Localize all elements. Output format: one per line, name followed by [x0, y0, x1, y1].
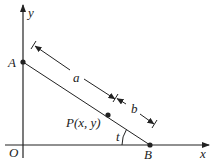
point-p [105, 112, 110, 117]
origin-label: O [9, 145, 19, 160]
point-a [20, 59, 25, 64]
dimension-a-left [35, 46, 70, 70]
x-axis-label: x [199, 146, 206, 161]
point-a-label: A [7, 55, 16, 70]
tick-mark-end [152, 120, 157, 128]
angle-t-arc [122, 130, 127, 146]
y-axis-label: y [26, 5, 34, 20]
segment-b-label: b [131, 101, 138, 116]
point-b-label: B [144, 147, 152, 161]
dimension-b-right [140, 114, 154, 124]
point-p-label: P(x, y) [65, 115, 101, 130]
ladder-diagram: y x O A B P(x, y) a b t [0, 0, 213, 161]
tick-mark-start [31, 41, 36, 49]
dimension-a-right [84, 79, 115, 99]
segment-a-label: a [73, 70, 80, 85]
angle-t-label: t [116, 129, 120, 144]
dimension-b-left [117, 99, 126, 105]
